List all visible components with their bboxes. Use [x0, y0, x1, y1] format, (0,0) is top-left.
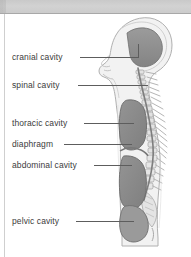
cranial-cavity-region [127, 28, 162, 67]
leader-thoracic-cavity [84, 123, 134, 124]
thoracic-cavity-region [119, 100, 146, 150]
leader-spinal-cavity [78, 85, 148, 86]
leader-cranial-cavity [80, 57, 138, 58]
leader-abdominal-cavity [94, 165, 132, 166]
leader-diaphragm [64, 144, 132, 145]
label-spinal-cavity: spinal cavity [12, 80, 60, 90]
label-abdominal-cavity: abdominal cavity [12, 160, 77, 170]
label-thoracic-cavity: thoracic cavity [12, 118, 67, 128]
abdominal-cavity-region [119, 156, 146, 209]
label-pelvic-cavity: pelvic cavity [12, 216, 59, 226]
leader-pelvic-cavity [76, 221, 134, 222]
diagram-page: cranial cavity spinal cavity thoracic ca… [0, 0, 191, 257]
leader-cranial-cavity-vertical [138, 44, 139, 58]
label-cranial-cavity: cranial cavity [12, 52, 63, 62]
label-diaphragm: diaphragm [12, 139, 53, 149]
